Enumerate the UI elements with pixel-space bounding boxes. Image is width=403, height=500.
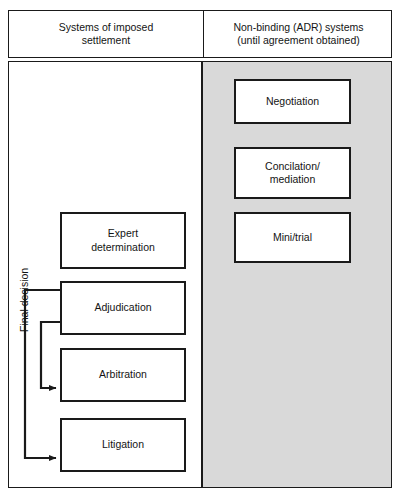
node-mini-trial-label: Mini/trial [273,231,312,245]
node-conciliation-mediation-label: Concilation/ mediation [265,160,320,187]
column-header-imposed-settlement: Systems of imposed settlement [9,11,204,57]
column-header-imposed-settlement-label: Systems of imposed settlement [59,21,154,47]
node-adjudication[interactable]: Adjudication [60,281,186,335]
node-negotiation[interactable]: Negotiation [234,79,351,124]
column-header-band: Systems of imposed settlement Non-bindin… [8,10,392,58]
node-expert-determination[interactable]: Expert determination [60,212,186,269]
panel-non-binding-adr [203,62,391,487]
node-adjudication-label: Adjudication [94,301,151,315]
column-header-non-binding-adr: Non-binding (ADR) systems (until agreeme… [204,11,393,57]
node-arbitration-label: Arbitration [99,368,147,382]
node-mini-trial[interactable]: Mini/trial [234,212,351,263]
node-expert-determination-label: Expert determination [91,227,155,254]
node-litigation[interactable]: Litigation [60,418,186,472]
node-litigation-label: Litigation [102,438,144,452]
node-conciliation-mediation[interactable]: Concilation/ mediation [234,147,351,199]
node-arbitration[interactable]: Arbitration [60,348,186,402]
connector-label-final-decision: Final decision [17,242,31,332]
column-header-non-binding-adr-label: Non-binding (ADR) systems (until agreeme… [233,21,363,47]
node-negotiation-label: Negotiation [266,95,319,109]
diagram-root: Systems of imposed settlement Non-bindin… [0,0,403,500]
